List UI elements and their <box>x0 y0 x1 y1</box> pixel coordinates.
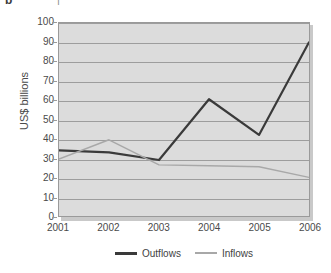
x-axis-tick-label: 2003 <box>136 222 182 234</box>
x-axis-tick-labels: 200120022003200420052006 <box>58 222 310 238</box>
series-line-inflows <box>59 140 309 178</box>
plot-series-layer <box>59 23 309 216</box>
caption-remnant: b | <box>0 0 331 9</box>
y-axis-tick-mark <box>52 81 57 82</box>
legend-label: Outflows <box>142 248 181 259</box>
series-line-outflows <box>59 42 309 160</box>
y-axis-tick-marks <box>0 22 58 217</box>
legend-swatch-icon <box>115 252 137 255</box>
y-axis-tick-mark <box>52 42 57 43</box>
y-axis-tick-mark <box>52 198 57 199</box>
y-axis-tick-mark <box>52 159 57 160</box>
y-axis-tick-mark <box>52 139 57 140</box>
legend-label: Inflows <box>222 248 253 259</box>
plot-area <box>58 22 310 217</box>
x-axis-tick-label: 2001 <box>35 222 81 234</box>
y-axis-tick-mark <box>52 100 57 101</box>
caption-remnant-left-glyph: b <box>5 0 13 7</box>
y-axis-tick-mark <box>52 22 57 23</box>
legend-item-inflows[interactable]: Inflows <box>195 248 253 259</box>
x-axis-tick-label: 2002 <box>85 222 131 234</box>
x-axis-tick-label: 2005 <box>237 222 283 234</box>
y-axis-tick-mark <box>52 120 57 121</box>
legend-item-outflows[interactable]: Outflows <box>115 248 181 259</box>
legend-swatch-icon <box>195 252 217 254</box>
y-axis-tick-mark <box>52 61 57 62</box>
y-axis-tick-mark <box>52 217 57 218</box>
x-axis-tick-label: 2006 <box>287 222 331 234</box>
line-chart: US$ billions 0102030405060708090100 2001… <box>0 9 331 273</box>
caption-remnant-right-glyph: | <box>57 0 60 5</box>
x-axis-tick-label: 2004 <box>186 222 232 234</box>
figure: b | US$ billions 0102030405060708090100 … <box>0 0 331 273</box>
chart-legend: OutflowsInflows <box>58 245 310 261</box>
y-axis-tick-mark <box>52 178 57 179</box>
